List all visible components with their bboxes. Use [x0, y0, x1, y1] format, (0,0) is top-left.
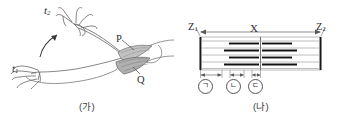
label-z1: Z1	[188, 21, 198, 32]
figure-root: t2 t1 P Q (가)	[0, 0, 348, 123]
dimension-x	[200, 30, 321, 35]
segment-dimensions	[201, 70, 261, 78]
caption-panel-a: (가)	[0, 99, 174, 113]
segment-label-2: ㄴ	[226, 79, 241, 94]
caption-panel-b: (나)	[174, 99, 348, 113]
label-z2: Z2	[316, 21, 326, 32]
panel-sarcomere: Z1 Z2 X ㄱ ㄴ ㄷ (나)	[174, 0, 348, 123]
label-muscle-p: P	[116, 33, 122, 44]
label-muscle-q: Q	[137, 74, 145, 85]
muscle-q-shape	[116, 57, 150, 74]
segment-label-3: ㄷ	[248, 79, 263, 94]
label-t1: t1	[12, 62, 18, 74]
label-sarcomere-span: X	[250, 22, 258, 34]
segment-label-1: ㄱ	[198, 79, 213, 94]
panel-arm-flexion: t2 t1 P Q (가)	[0, 0, 174, 123]
label-t2: t2	[44, 4, 50, 16]
